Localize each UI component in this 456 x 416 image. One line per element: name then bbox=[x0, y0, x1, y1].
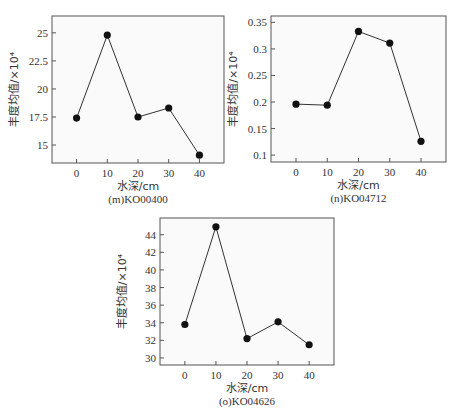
y-tick-label: 0.3 bbox=[253, 43, 267, 55]
x-tick-label: 30 bbox=[384, 166, 396, 178]
x-axis-label: 水深/cm bbox=[337, 179, 379, 192]
data-point bbox=[73, 115, 80, 122]
data-point bbox=[134, 113, 141, 120]
x-tick-label: 0 bbox=[182, 369, 188, 381]
chart-caption: (n)KO04712 bbox=[330, 192, 386, 205]
data-point bbox=[104, 31, 111, 38]
line-chart-2: 3032343638404244010203040水深/cm(o)KO04626… bbox=[115, 218, 334, 408]
data-point bbox=[196, 152, 203, 159]
y-tick-label: 17.5 bbox=[29, 111, 49, 123]
x-axis-label: 水深/cm bbox=[117, 180, 159, 193]
y-tick-label: 15 bbox=[37, 139, 49, 151]
data-point bbox=[243, 335, 250, 342]
charts-canvas: 1517.52022.525010203040水深/cm(m)KO00400丰度… bbox=[0, 0, 456, 416]
chart-caption: (m)KO00400 bbox=[108, 193, 168, 206]
y-tick-label: 0.15 bbox=[248, 123, 268, 135]
y-axis-label: 丰度均值/×10⁴ bbox=[115, 253, 129, 329]
x-tick-label: 40 bbox=[304, 369, 316, 381]
x-tick-label: 30 bbox=[273, 369, 285, 381]
y-tick-label: 30 bbox=[145, 352, 157, 364]
x-tick-label: 30 bbox=[163, 167, 175, 179]
line-chart-0: 1517.52022.525010203040水深/cm(m)KO00400丰度… bbox=[7, 16, 224, 206]
x-tick-label: 10 bbox=[322, 166, 334, 178]
x-tick-label: 20 bbox=[242, 369, 254, 381]
y-tick-label: 20 bbox=[37, 83, 49, 95]
y-tick-label: 34 bbox=[145, 317, 157, 329]
y-tick-label: 38 bbox=[145, 282, 157, 294]
x-axis-label: 水深/cm bbox=[226, 382, 268, 395]
x-tick-label: 0 bbox=[74, 167, 80, 179]
data-point bbox=[274, 318, 281, 325]
y-tick-label: 0.1 bbox=[253, 149, 267, 161]
y-axis-label: 丰度均值/×10⁴ bbox=[7, 51, 21, 127]
data-point bbox=[417, 138, 424, 145]
y-tick-label: 25 bbox=[37, 27, 49, 39]
x-tick-label: 10 bbox=[102, 167, 114, 179]
y-axis-label: 丰度均值/×10⁴ bbox=[226, 51, 240, 127]
y-tick-label: 40 bbox=[145, 264, 157, 276]
data-point bbox=[355, 28, 362, 35]
x-tick-label: 40 bbox=[416, 166, 428, 178]
x-tick-label: 20 bbox=[133, 167, 145, 179]
x-tick-label: 10 bbox=[210, 369, 222, 381]
plot-frame bbox=[52, 16, 224, 163]
y-tick-label: 42 bbox=[145, 246, 156, 258]
y-tick-label: 0.25 bbox=[248, 69, 268, 81]
x-tick-label: 40 bbox=[194, 167, 206, 179]
data-point bbox=[181, 321, 188, 328]
y-tick-label: 0.2 bbox=[253, 96, 267, 108]
data-point bbox=[306, 341, 313, 348]
data-point bbox=[165, 104, 172, 111]
x-tick-label: 0 bbox=[293, 166, 299, 178]
y-tick-label: 32 bbox=[145, 334, 156, 346]
data-point bbox=[212, 223, 219, 230]
y-tick-label: 36 bbox=[145, 299, 157, 311]
y-tick-label: 0.35 bbox=[248, 16, 268, 28]
chart-caption: (o)KO04626 bbox=[219, 395, 276, 408]
data-point bbox=[324, 102, 331, 109]
data-point bbox=[292, 101, 299, 108]
y-tick-label: 44 bbox=[145, 229, 157, 241]
y-tick-label: 22.5 bbox=[29, 55, 49, 67]
line-chart-1: 0.10.150.20.250.30.35010203040水深/cm(n)KO… bbox=[226, 16, 446, 205]
data-point bbox=[386, 39, 393, 46]
x-tick-label: 20 bbox=[353, 166, 365, 178]
